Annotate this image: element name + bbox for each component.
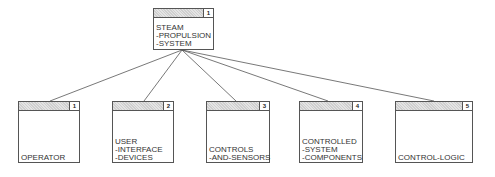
node-controlled-system-components[interactable]: 4 CONTROLLED -SYSTEM -COMPONENTS (299, 101, 363, 163)
node-titlebar: 5 (396, 102, 472, 111)
node-number: 1 (69, 102, 79, 110)
node-number: 1 (203, 9, 213, 17)
node-controls-and-sensors[interactable]: 3 CONTROLS -AND-SENSORS (206, 101, 270, 163)
node-control-logic[interactable]: 5 CONTROL-LOGIC (395, 101, 473, 163)
node-number: 5 (462, 102, 472, 110)
node-label: CONTROLLED -SYSTEM -COMPONENTS (302, 138, 362, 162)
node-titlebar: 1 (19, 102, 79, 111)
node-label: CONTROL-LOGIC (398, 154, 465, 162)
node-titlebar: 2 (113, 102, 173, 111)
node-label: USER -INTERFACE -DEVICES (115, 138, 163, 162)
node-number: 2 (163, 102, 173, 110)
node-titlebar: 4 (300, 102, 362, 111)
node-operator[interactable]: 1 OPERATOR (18, 101, 80, 163)
link-control-logic (182, 50, 434, 101)
node-user-interface-devices[interactable]: 2 USER -INTERFACE -DEVICES (112, 101, 174, 163)
node-label: OPERATOR (21, 154, 65, 162)
node-steam-propulsion-system[interactable]: 1 STEAM -PROPULSION -SYSTEM (153, 8, 214, 50)
link-operator (50, 50, 182, 101)
node-number: 4 (352, 102, 362, 110)
node-titlebar: 3 (207, 102, 269, 111)
node-titlebar: 1 (154, 9, 213, 18)
link-controls-and-sensors (182, 50, 236, 101)
node-label: CONTROLS -AND-SENSORS (209, 146, 270, 162)
node-number: 3 (259, 102, 269, 110)
node-label: STEAM -PROPULSION -SYSTEM (156, 24, 211, 48)
